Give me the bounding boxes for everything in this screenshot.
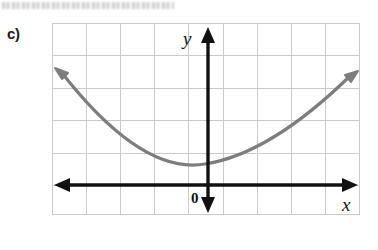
parabola-graph-svg: y x 0 <box>52 23 360 215</box>
graph-plot-area: y x 0 <box>52 23 360 215</box>
figure-page: c) <box>0 0 378 250</box>
y-axis-label: y <box>181 28 192 49</box>
origin-label: 0 <box>191 190 199 206</box>
x-axis-label: x <box>341 194 351 215</box>
part-label: c) <box>7 25 20 42</box>
redacted-header-strip <box>2 2 174 9</box>
